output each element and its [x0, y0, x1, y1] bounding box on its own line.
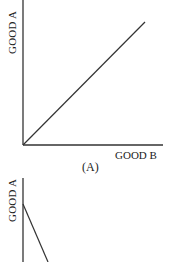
- chart-a: GOOD A GOOD B (A): [0, 0, 169, 178]
- chart-caption: (A): [82, 160, 99, 175]
- chart-b-plot: [0, 176, 169, 262]
- chart-b: GOOD A: [0, 176, 169, 262]
- data-line: [23, 204, 48, 262]
- data-line: [23, 22, 145, 145]
- y-axis-label: GOOD A: [6, 11, 18, 54]
- y-axis-label: GOOD A: [6, 179, 18, 222]
- x-axis-label: GOOD B: [115, 149, 157, 161]
